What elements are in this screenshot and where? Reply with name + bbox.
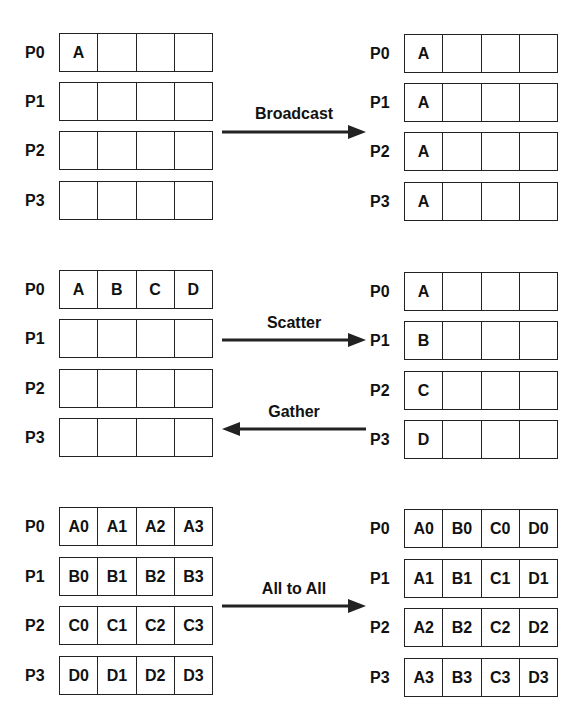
buffer: A <box>404 83 558 122</box>
buffer-cell <box>482 372 520 409</box>
buffer-cell <box>98 34 136 71</box>
buffer-cell <box>443 35 481 72</box>
buffer-cell <box>175 320 212 357</box>
buffer-cell <box>137 370 175 407</box>
buffer-cell: B2 <box>443 609 481 646</box>
buffer: A <box>404 34 558 73</box>
buffer-cell <box>482 183 520 220</box>
buffer-cell: C3 <box>482 659 520 696</box>
buffer-cell: D2 <box>520 609 557 646</box>
buffer: A0B0C0D0 <box>404 509 558 548</box>
buffer-cell: B3 <box>443 659 481 696</box>
buffer-cell: C0 <box>60 607 98 644</box>
process-label: P0 <box>370 509 400 549</box>
buffer-cell <box>482 421 520 458</box>
buffer: D <box>404 420 558 459</box>
buffer-cell: B <box>98 271 136 308</box>
buffer-cell <box>175 83 212 120</box>
buffer <box>59 319 213 358</box>
process-row: P2C0C1C2C3 <box>59 606 214 646</box>
buffer-cell <box>175 132 212 169</box>
buffer-cell <box>482 35 520 72</box>
arrow-left-icon <box>222 419 366 439</box>
buffer-cell: D3 <box>175 657 212 694</box>
process-row: P3 <box>59 181 214 221</box>
buffer-cell: C2 <box>137 607 175 644</box>
buffer-cell <box>175 370 212 407</box>
process-label: P3 <box>370 420 400 460</box>
buffer-cell <box>520 273 557 310</box>
process-row: P1B0B1B2B3 <box>59 557 214 597</box>
process-label: P2 <box>25 369 55 409</box>
process-label: P3 <box>25 418 55 458</box>
buffer-cell <box>520 84 557 121</box>
buffer-cell <box>520 322 557 359</box>
buffer-cell: D3 <box>520 659 557 696</box>
buffer-cell <box>443 183 481 220</box>
buffer: C <box>404 371 558 410</box>
buffer-cell: D0 <box>60 657 98 694</box>
buffer-cell: A2 <box>137 508 175 545</box>
buffer: A0A1A2A3 <box>59 507 213 546</box>
buffer-cell <box>482 273 520 310</box>
buffer <box>59 418 213 457</box>
buffer: A1B1C1D1 <box>404 559 558 598</box>
buffer-cell <box>443 421 481 458</box>
buffer-cell: A1 <box>98 508 136 545</box>
buffer-cell: B1 <box>443 560 481 597</box>
buffer-cell <box>98 182 136 219</box>
process-label: P2 <box>25 606 55 646</box>
buffer: A <box>404 182 558 221</box>
buffer-cell: C1 <box>98 607 136 644</box>
buffer-cell: C <box>405 372 443 409</box>
buffer: B0B1B2B3 <box>59 557 213 596</box>
arrow-right-icon <box>222 596 366 616</box>
process-row: P1A1B1C1D1 <box>404 559 559 599</box>
buffer-cell: A <box>60 271 98 308</box>
process-row: P1B <box>404 321 559 361</box>
buffer: A2B2C2D2 <box>404 608 558 647</box>
buffer-cell <box>482 133 520 170</box>
buffer: C0C1C2C3 <box>59 606 213 645</box>
buffer-cell: B1 <box>98 558 136 595</box>
operation-label: Gather <box>222 403 366 421</box>
buffer: ABCD <box>59 270 213 309</box>
process-label: P1 <box>25 319 55 359</box>
buffer-cell: C <box>137 271 175 308</box>
buffer-cell: A2 <box>405 609 443 646</box>
buffer-cell <box>60 370 98 407</box>
process-label: P0 <box>25 33 55 73</box>
buffer: A <box>404 132 558 171</box>
process-label: P0 <box>370 34 400 74</box>
buffer-cell: A0 <box>405 510 443 547</box>
buffer-cell: A0 <box>60 508 98 545</box>
buffer-cell <box>175 34 212 71</box>
operation-label: Scatter <box>222 314 366 332</box>
buffer-cell <box>443 322 481 359</box>
buffer: A3B3C3D3 <box>404 658 558 697</box>
buffer-cell <box>443 133 481 170</box>
process-label: P3 <box>370 182 400 222</box>
buffer-cell <box>520 183 557 220</box>
process-label: P2 <box>370 132 400 172</box>
operation-label: Broadcast <box>222 105 366 123</box>
process-label: P3 <box>25 656 55 696</box>
buffer-cell <box>60 419 98 456</box>
process-row: P2A <box>404 132 559 172</box>
process-label: P2 <box>370 608 400 648</box>
arrow-right-icon <box>222 122 366 142</box>
buffer-cell <box>60 83 98 120</box>
buffer-cell: A3 <box>405 659 443 696</box>
process-row: P2A2B2C2D2 <box>404 608 559 648</box>
buffer-cell <box>98 83 136 120</box>
process-label: P0 <box>25 507 55 547</box>
buffer-cell: C0 <box>482 510 520 547</box>
buffer-cell <box>520 35 557 72</box>
buffer-cell: A1 <box>405 560 443 597</box>
buffer-cell: D0 <box>520 510 557 547</box>
process-row: P1A <box>404 83 559 123</box>
buffer-cell <box>98 370 136 407</box>
process-row: P1 <box>59 82 214 122</box>
process-row: P3D <box>404 420 559 460</box>
buffer-cell <box>137 182 175 219</box>
